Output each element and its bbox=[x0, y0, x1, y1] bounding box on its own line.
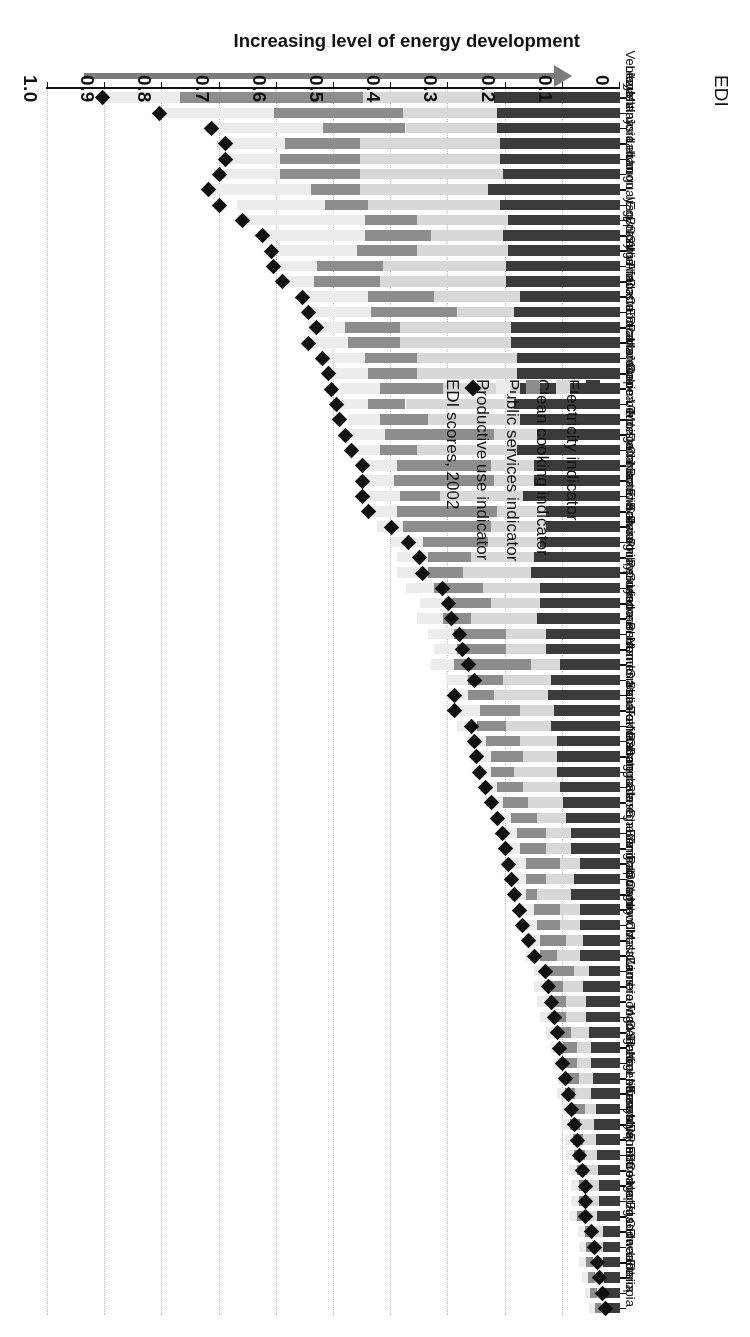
edi-score-marker[interactable] bbox=[323, 381, 339, 397]
bar-row[interactable] bbox=[48, 642, 620, 656]
bar-row[interactable] bbox=[48, 1041, 620, 1055]
bar-row[interactable] bbox=[48, 826, 620, 840]
bar-segment-1[interactable] bbox=[546, 506, 620, 517]
bar-row[interactable] bbox=[48, 949, 620, 963]
bar-segment-2[interactable] bbox=[563, 981, 583, 992]
bar-segment-1[interactable] bbox=[583, 935, 620, 946]
bar-segment-3[interactable] bbox=[357, 245, 417, 256]
bar-row[interactable] bbox=[48, 734, 620, 748]
bar-segment-2[interactable] bbox=[463, 567, 532, 578]
legend-item[interactable]: Public services indicator bbox=[520, 97, 540, 397]
bar-segment-1[interactable] bbox=[589, 966, 620, 977]
bar-row[interactable] bbox=[48, 903, 620, 917]
bar-segment-4[interactable] bbox=[582, 1272, 588, 1283]
bar-segment-1[interactable] bbox=[551, 721, 620, 732]
bar-segment-2[interactable] bbox=[383, 261, 506, 272]
bar-row[interactable] bbox=[48, 1163, 620, 1177]
bar-segment-2[interactable] bbox=[546, 874, 575, 885]
bar-segment-4[interactable] bbox=[348, 414, 379, 425]
bar-segment-1[interactable] bbox=[583, 981, 620, 992]
bar-segment-2[interactable] bbox=[506, 644, 546, 655]
bar-row[interactable] bbox=[48, 811, 620, 825]
bar-segment-3[interactable] bbox=[280, 169, 360, 180]
bar-segment-1[interactable] bbox=[557, 751, 620, 762]
bar-segment-2[interactable] bbox=[523, 751, 557, 762]
bar-row[interactable] bbox=[48, 872, 620, 886]
bar-segment-1[interactable] bbox=[560, 782, 620, 793]
bar-segment-2[interactable] bbox=[537, 889, 571, 900]
legend-item[interactable]: Electricity indicator bbox=[580, 97, 600, 397]
bar-segment-2[interactable] bbox=[494, 690, 548, 701]
bar-segment-3[interactable] bbox=[540, 950, 557, 961]
bar-segment-3[interactable] bbox=[428, 567, 462, 578]
bar-segment-4[interactable] bbox=[208, 184, 311, 195]
bar-segment-1[interactable] bbox=[560, 659, 620, 670]
bar-segment-3[interactable] bbox=[280, 154, 360, 165]
bar-row[interactable] bbox=[48, 1301, 620, 1315]
bar-segment-3[interactable] bbox=[314, 276, 380, 287]
bar-segment-1[interactable] bbox=[599, 1180, 620, 1191]
bar-segment-1[interactable] bbox=[593, 1073, 620, 1084]
bar-segment-3[interactable] bbox=[325, 200, 368, 211]
bar-segment-2[interactable] bbox=[571, 1027, 588, 1038]
bar-segment-4[interactable] bbox=[222, 169, 279, 180]
bar-row[interactable] bbox=[48, 658, 620, 672]
bar-segment-1[interactable] bbox=[603, 1226, 620, 1237]
bar-segment-4[interactable] bbox=[579, 1242, 586, 1253]
bar-segment-1[interactable] bbox=[531, 567, 620, 578]
bar-segment-3[interactable] bbox=[526, 858, 560, 869]
bar-segment-2[interactable] bbox=[380, 276, 506, 287]
bar-segment-4[interactable] bbox=[417, 613, 443, 624]
bar-segment-1[interactable] bbox=[589, 1027, 620, 1038]
bar-segment-2[interactable] bbox=[471, 613, 537, 624]
bar-segment-2[interactable] bbox=[523, 782, 560, 793]
bar-row[interactable] bbox=[48, 596, 620, 610]
bar-segment-4[interactable] bbox=[428, 629, 454, 640]
bar-segment-1[interactable] bbox=[603, 1242, 620, 1253]
bar-segment-2[interactable] bbox=[506, 629, 546, 640]
bar-segment-1[interactable] bbox=[571, 843, 620, 854]
bar-segment-3[interactable] bbox=[526, 874, 546, 885]
bar-row[interactable] bbox=[48, 1010, 620, 1024]
bar-segment-1[interactable] bbox=[580, 950, 620, 961]
bar-segment-1[interactable] bbox=[537, 613, 620, 624]
bar-segment-1[interactable] bbox=[540, 583, 620, 594]
bar-segment-2[interactable] bbox=[506, 721, 552, 732]
bar-segment-2[interactable] bbox=[368, 200, 500, 211]
bar-segment-2[interactable] bbox=[546, 843, 572, 854]
bar-segment-3[interactable] bbox=[317, 261, 383, 272]
bar-segment-2[interactable] bbox=[574, 966, 588, 977]
bar-segment-3[interactable] bbox=[365, 215, 416, 226]
bar-segment-1[interactable] bbox=[571, 828, 620, 839]
bar-segment-1[interactable] bbox=[599, 1196, 620, 1207]
bar-segment-1[interactable] bbox=[557, 736, 620, 747]
bar-segment-3[interactable] bbox=[345, 322, 399, 333]
bar-segment-2[interactable] bbox=[483, 583, 540, 594]
bar-segment-3[interactable] bbox=[537, 920, 560, 931]
bar-segment-4[interactable] bbox=[277, 245, 357, 256]
bar-row[interactable] bbox=[48, 780, 620, 794]
bar-segment-1[interactable] bbox=[598, 1165, 620, 1176]
bar-row[interactable] bbox=[48, 581, 620, 595]
bar-segment-3[interactable] bbox=[468, 690, 494, 701]
bar-segment-4[interactable] bbox=[348, 429, 385, 440]
bar-segment-2[interactable] bbox=[546, 828, 572, 839]
bar-segment-3[interactable] bbox=[348, 337, 399, 348]
bar-segment-3[interactable] bbox=[311, 184, 360, 195]
bar-segment-2[interactable] bbox=[566, 935, 583, 946]
bar-segment-3[interactable] bbox=[511, 813, 537, 824]
bar-row[interactable] bbox=[48, 964, 620, 978]
bar-segment-1[interactable] bbox=[586, 996, 620, 1007]
bar-segment-4[interactable] bbox=[237, 200, 326, 211]
bar-segment-1[interactable] bbox=[566, 813, 620, 824]
bar-row[interactable] bbox=[48, 995, 620, 1009]
bar-row[interactable] bbox=[48, 1179, 620, 1193]
bar-row[interactable] bbox=[48, 1025, 620, 1039]
bar-segment-1[interactable] bbox=[546, 644, 620, 655]
bar-segment-2[interactable] bbox=[560, 920, 580, 931]
legend-item[interactable]: Productive use indicator bbox=[490, 97, 510, 397]
bar-segment-1[interactable] bbox=[540, 598, 620, 609]
bar-segment-1[interactable] bbox=[596, 1134, 620, 1145]
bar-segment-1[interactable] bbox=[591, 1042, 620, 1053]
bar-segment-1[interactable] bbox=[591, 1058, 620, 1069]
